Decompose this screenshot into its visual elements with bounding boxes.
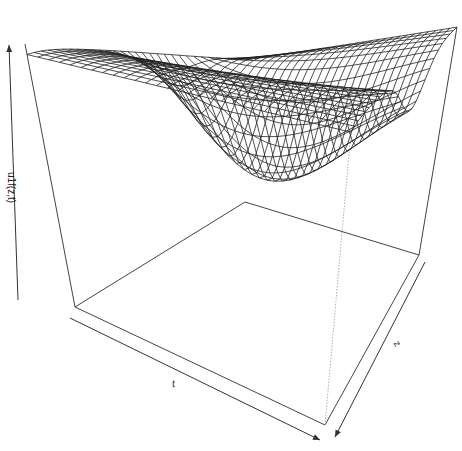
plot-canvas (0, 0, 462, 451)
surface-mesh (27, 27, 457, 181)
z-axis-label: u1f(z,t) (6, 172, 17, 203)
axis-arrows (9, 45, 425, 440)
surface-plot: u1f(z,t) t z (0, 0, 462, 451)
